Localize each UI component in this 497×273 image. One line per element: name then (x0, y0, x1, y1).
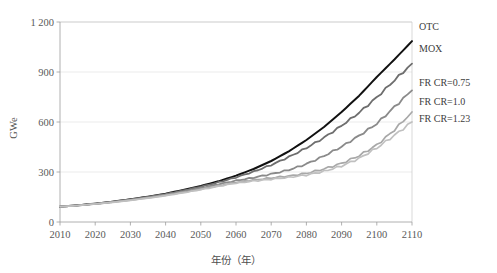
x-tick-label-2100: 2100 (366, 229, 387, 240)
series-line-otc (60, 41, 412, 207)
end-label-fr-cr-0-75: FR CR=0.75 (419, 77, 470, 88)
y-axis-ticks-group: 03006009001 200 (30, 17, 60, 228)
x-axis-title: 年份（年） (211, 254, 261, 266)
y-tick-label-600: 600 (38, 117, 54, 128)
x-tick-label-2080: 2080 (296, 229, 317, 240)
x-tick-label-2010: 2010 (50, 229, 71, 240)
x-tick-label-2050: 2050 (190, 229, 211, 240)
series-line-fr-cr-1-0 (60, 112, 412, 207)
end-label-mox: MOX (419, 43, 443, 54)
end-label-fr-cr-1-0: FR CR=1.0 (419, 96, 465, 107)
chart-container: 03006009001 200 201020202030204020502060… (0, 0, 497, 273)
end-labels-group: OTCMOXFR CR=0.75FR CR=1.0FR CR=1.23 (419, 21, 470, 124)
line-chart: 03006009001 200 201020202030204020502060… (0, 0, 497, 273)
x-tick-label-2030: 2030 (120, 229, 141, 240)
end-label-otc: OTC (419, 21, 439, 32)
y-tick-label-900: 900 (38, 67, 54, 78)
series-line-fr-cr-0-75 (60, 90, 412, 206)
x-tick-label-2070: 2070 (261, 229, 282, 240)
series-group (60, 41, 412, 207)
y-axis-title: GWe (8, 117, 19, 139)
x-tick-label-2020: 2020 (85, 229, 106, 240)
y-tick-label-1200: 1 200 (30, 17, 54, 28)
x-tick-label-2110: 2110 (402, 229, 423, 240)
y-tick-label-300: 300 (38, 167, 54, 178)
x-axis-ticks-group: 2010202020302040205020602070208020902100… (50, 222, 423, 240)
y-tick-label-0: 0 (49, 217, 54, 228)
end-label-fr-cr-1-23: FR CR=1.23 (419, 113, 470, 124)
x-tick-label-2040: 2040 (155, 229, 176, 240)
x-tick-label-2090: 2090 (331, 229, 352, 240)
x-tick-label-2060: 2060 (226, 229, 247, 240)
